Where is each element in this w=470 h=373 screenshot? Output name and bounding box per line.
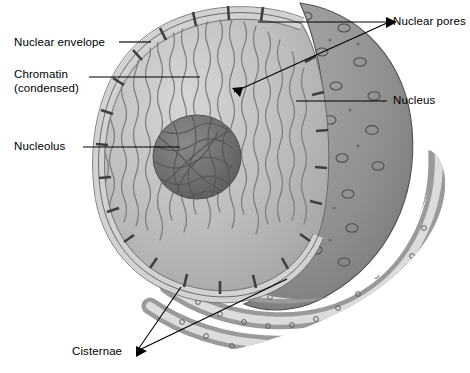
figure-canvas: Nuclear envelope Chromatin (condensed) N…	[0, 0, 470, 373]
label-nuclear-envelope: Nuclear envelope	[14, 36, 105, 50]
label-nuclear-pores: Nuclear pores	[393, 15, 466, 29]
nucleus-diagram-artwork	[0, 0, 470, 373]
label-nucleus: Nucleus	[393, 94, 435, 108]
label-chromatin-condensed: (condensed)	[14, 82, 79, 96]
label-cisternae: Cisternae	[72, 345, 122, 359]
label-chromatin: Chromatin	[14, 68, 68, 82]
label-nucleolus: Nucleolus	[14, 140, 65, 154]
nucleus-interior	[93, 6, 329, 303]
nucleolus-body	[153, 115, 241, 200]
